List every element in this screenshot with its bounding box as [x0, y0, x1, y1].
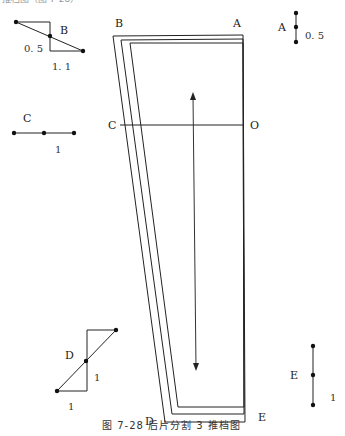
grading-a-label: A — [278, 22, 286, 33]
grading-d-vertical-value: 1 — [94, 373, 100, 383]
grading-c-value: 1 — [55, 145, 61, 155]
grading-d-label: D — [65, 350, 74, 361]
grading-d-horizontal-value: 1 — [68, 402, 74, 412]
grading-e-value: 1 — [330, 393, 336, 403]
grading-c-label: C — [23, 113, 31, 124]
point-label-o: O — [250, 120, 259, 131]
pattern-grading-figure: 推档图（图 7-28） — [0, 0, 345, 436]
point-label-b: B — [115, 18, 123, 29]
grading-diagram-a — [294, 11, 298, 44]
grading-diagram-e — [311, 344, 315, 407]
point-label-e: E — [258, 412, 266, 423]
outline-medium — [121, 39, 244, 414]
point-label-c: C — [108, 120, 116, 131]
grading-b-horizontal-value: 1. 1 — [52, 62, 71, 72]
grainline-icon — [190, 92, 199, 371]
outline-large — [113, 35, 245, 422]
outline-small — [130, 43, 244, 407]
figure-caption: 图 7-28 后片分割 3 推档图 — [102, 421, 241, 431]
grading-e-label: E — [290, 370, 298, 381]
point-label-a: A — [233, 18, 241, 29]
grading-diagram-c — [12, 131, 76, 135]
grading-b-vertical-value: 0. 5 — [24, 44, 43, 54]
pattern-outlines — [113, 35, 245, 422]
grading-a-value: 0. 5 — [305, 31, 324, 41]
grading-b-label: B — [60, 25, 68, 36]
